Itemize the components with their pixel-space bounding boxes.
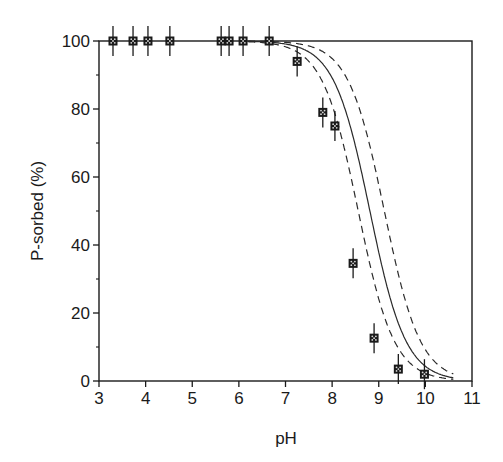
y-axis-label: P-sorbed (%)	[28, 161, 47, 261]
model-curve	[248, 41, 453, 377]
y-tick-label: 60	[71, 168, 90, 187]
marker-dot	[298, 59, 300, 61]
marker-dot	[354, 264, 356, 266]
x-tick-label: 6	[234, 389, 243, 408]
marker-dot	[130, 38, 132, 40]
marker-dot	[240, 38, 242, 40]
marker-dot	[114, 42, 116, 44]
marker-dot	[132, 40, 134, 42]
marker-dot	[145, 38, 147, 40]
data-point	[165, 26, 174, 56]
marker-dot	[167, 42, 169, 44]
x-tick-label: 10	[416, 389, 435, 408]
marker-dot	[147, 40, 149, 42]
marker-dot	[352, 262, 354, 264]
marker-dot	[399, 370, 401, 372]
marker-dot	[425, 372, 427, 374]
model-curves	[248, 41, 453, 379]
marker-dot	[149, 38, 151, 40]
marker-dot	[167, 38, 169, 40]
marker-dot	[226, 42, 228, 44]
data-point	[239, 26, 248, 56]
marker-dot	[322, 112, 324, 114]
marker-dot	[112, 40, 114, 42]
marker-dot	[110, 38, 112, 40]
marker-dot	[334, 125, 336, 127]
data-point	[143, 26, 152, 56]
marker-dot	[266, 38, 268, 40]
marker-dot	[244, 42, 246, 44]
marker-dot	[373, 337, 375, 339]
marker-dot	[134, 38, 136, 40]
marker-dot	[336, 127, 338, 129]
marker-dot	[324, 113, 326, 115]
marker-dot	[222, 38, 224, 40]
x-tick-label: 7	[281, 389, 290, 408]
y-tick-label: 100	[62, 32, 90, 51]
marker-dot	[332, 127, 334, 129]
marker-dot	[375, 339, 377, 341]
marker-dot	[244, 38, 246, 40]
marker-dot	[425, 375, 427, 377]
x-axis-label: pH	[275, 429, 297, 448]
data-point	[293, 46, 302, 76]
marker-dot	[296, 61, 298, 63]
data-point	[318, 97, 327, 127]
data-point	[225, 26, 234, 56]
dashed-bound-curve	[248, 41, 453, 374]
marker-dot	[294, 62, 296, 64]
marker-dot	[266, 42, 268, 44]
marker-dot	[354, 261, 356, 263]
marker-dot	[171, 38, 173, 40]
marker-dot	[149, 42, 151, 44]
y-tick-label: 0	[81, 372, 90, 391]
marker-dot	[220, 40, 222, 42]
marker-dot	[242, 40, 244, 42]
marker-dot	[228, 40, 230, 42]
marker-dot	[270, 38, 272, 40]
marker-dot	[230, 42, 232, 44]
marker-dot	[371, 335, 373, 337]
dashed-bound-curve	[248, 42, 453, 380]
marker-dot	[324, 110, 326, 112]
marker-dot	[396, 366, 398, 368]
data-point	[420, 359, 429, 389]
marker-dot	[169, 40, 171, 42]
marker-dot	[424, 373, 426, 375]
x-tick-label: 4	[141, 389, 150, 408]
data-point	[330, 111, 339, 141]
x-axis-ticks: 34567891011	[94, 381, 481, 408]
x-tick-label: 8	[327, 389, 336, 408]
marker-dot	[218, 38, 220, 40]
marker-dot	[350, 261, 352, 263]
data-point	[129, 26, 138, 56]
data-point	[108, 26, 117, 56]
data-point	[265, 26, 274, 56]
marker-dot	[375, 335, 377, 337]
y-tick-label: 40	[71, 236, 90, 255]
data-point	[349, 248, 358, 278]
data-point	[370, 323, 379, 353]
marker-dot	[399, 366, 401, 368]
marker-dot	[110, 42, 112, 44]
marker-dot	[134, 42, 136, 44]
y-tick-label: 20	[71, 304, 90, 323]
x-tick-label: 3	[94, 389, 103, 408]
marker-dot	[240, 42, 242, 44]
marker-dot	[371, 339, 373, 341]
marker-dot	[332, 123, 334, 125]
marker-dot	[268, 40, 270, 42]
marker-dot	[298, 62, 300, 64]
ph-sorption-chart: 020406080100 34567891011 pH P-sorbed (%)	[0, 0, 503, 462]
marker-dot	[114, 38, 116, 40]
y-tick-label: 80	[71, 100, 90, 119]
y-axis-ticks: 020406080100	[62, 32, 99, 391]
marker-dot	[294, 59, 296, 61]
marker-dot	[218, 42, 220, 44]
marker-dot	[270, 42, 272, 44]
marker-dot	[230, 38, 232, 40]
marker-dot	[130, 42, 132, 44]
x-tick-label: 5	[188, 389, 197, 408]
x-tick-label: 11	[463, 389, 481, 408]
marker-dot	[171, 42, 173, 44]
